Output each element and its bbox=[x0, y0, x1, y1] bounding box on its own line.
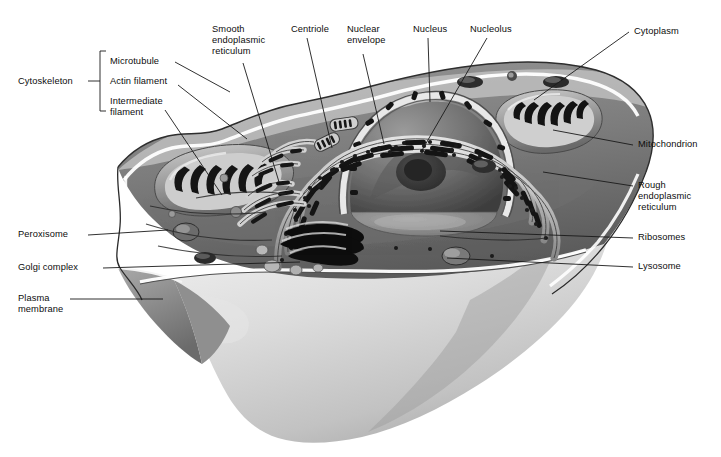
leader-microtubule bbox=[175, 62, 230, 92]
label-nucleus: Nucleus bbox=[413, 24, 447, 35]
label-cytoskeleton-group: Cytoskeleton bbox=[18, 76, 73, 87]
label-actin-filament: Actin filament bbox=[110, 76, 167, 87]
lysosome bbox=[442, 247, 470, 265]
label-smooth-er: Smooth endoplasmic reticulum bbox=[212, 24, 265, 58]
label-golgi-complex: Golgi complex bbox=[18, 262, 78, 273]
cell-diagram-figure: Cytoskeleton Microtubule Actin filament … bbox=[0, 0, 721, 457]
leader-actin-filament bbox=[178, 85, 247, 139]
nucleolus-core bbox=[404, 159, 432, 181]
label-peroxisome: Peroxisome bbox=[18, 229, 68, 240]
label-microtubule: Microtubule bbox=[110, 56, 159, 67]
label-rough-er: Rough endoplasmic reticulum bbox=[638, 180, 691, 214]
label-intermediate-filament: Intermediate filament bbox=[110, 96, 163, 118]
cytoskeleton-bracket bbox=[88, 51, 106, 111]
label-centriole: Centriole bbox=[291, 24, 329, 35]
animal-cell-illustration bbox=[0, 0, 721, 457]
label-nuclear-envelope: Nuclear envelope bbox=[347, 24, 385, 46]
label-mitochondrion: Mitochondrion bbox=[638, 139, 698, 150]
bracket-shape bbox=[100, 51, 106, 111]
label-lysosome: Lysosome bbox=[638, 261, 681, 272]
nucleus-cut-sheen bbox=[374, 214, 466, 230]
label-plasma-membrane: Plasma membrane bbox=[18, 293, 63, 315]
label-ribosomes: Ribosomes bbox=[638, 232, 685, 243]
plasma-membrane-left-highlight bbox=[125, 176, 129, 266]
label-nucleolus: Nucleolus bbox=[470, 24, 512, 35]
label-cytoplasm: Cytoplasm bbox=[634, 26, 679, 37]
